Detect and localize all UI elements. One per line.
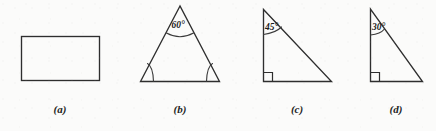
right-triangle-30-shape xyxy=(371,9,423,82)
apex-angle-arc xyxy=(167,33,194,37)
panel-d-group: 30° (d) xyxy=(371,9,423,116)
right-angle-mark-d xyxy=(371,73,380,82)
geometry-figure-canvas: (a) 60° (b) 45° (c) xyxy=(0,0,436,131)
right-triangle-45-shape xyxy=(264,10,332,82)
panel-a-caption: (a) xyxy=(54,103,67,116)
angle-label-45: 45° xyxy=(264,22,279,32)
right-angle-mark-c xyxy=(264,73,273,82)
angle-label-60: 60° xyxy=(172,20,186,30)
panel-d-caption: (d) xyxy=(390,103,403,116)
rectangle-shape xyxy=(22,37,100,81)
panel-b-caption: (b) xyxy=(174,103,187,116)
figure-sheet: (a) 60° (b) 45° (c) xyxy=(0,0,436,131)
panel-c-group: 45° (c) xyxy=(264,10,332,117)
panel-a-group: (a) xyxy=(22,37,100,117)
angle-label-30: 30° xyxy=(371,22,386,32)
panel-c-caption: (c) xyxy=(291,103,303,116)
panel-b-group: 60° (b) xyxy=(141,6,220,116)
